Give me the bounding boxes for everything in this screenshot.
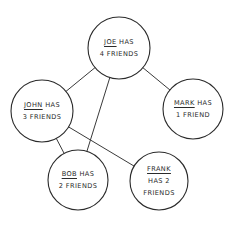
person-name: Frank <box>147 165 171 173</box>
label-line-1: Joe has <box>100 36 139 48</box>
label-line-1: Frank <box>143 163 174 175</box>
label-line-2: has 2 <box>143 175 174 187</box>
label-line-1: Bob has <box>59 168 98 180</box>
label-line-1: John has <box>23 99 62 111</box>
label-line-2: 2 friends <box>59 180 98 192</box>
label-line-1: Mark has <box>174 97 212 109</box>
person-name: Mark <box>174 99 195 107</box>
person-name: Joe <box>104 38 117 46</box>
label-line-2: 4 friends <box>100 48 139 60</box>
person-name: John <box>24 101 43 109</box>
label-line-2: 1 friend <box>174 109 212 121</box>
label-rest: has <box>77 170 94 178</box>
node-label-frank: Frankhas 2friends <box>143 163 174 199</box>
label-line-3: friends <box>143 187 174 199</box>
label-rest: has <box>43 101 60 109</box>
label-line-2: 3 friends <box>23 111 62 123</box>
node-label-joe: Joe has4 friends <box>100 36 139 60</box>
node-label-mark: Mark has1 friend <box>174 97 212 121</box>
node-label-bob: Bob has2 friends <box>59 168 98 192</box>
label-rest: has <box>117 38 134 46</box>
label-rest: has <box>195 99 212 107</box>
node-label-john: John has3 friends <box>23 99 62 123</box>
person-name: Bob <box>62 170 77 178</box>
